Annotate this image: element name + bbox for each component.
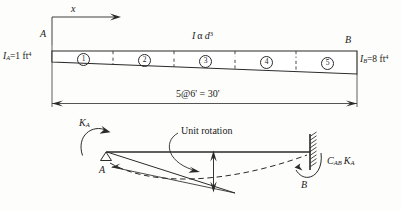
beam-segment-2: 2: [138, 54, 151, 67]
inertia-left-label: IA=1 ft4: [3, 51, 31, 61]
beam-segment-3: 3: [199, 55, 212, 68]
inertia-right-value: 8 ft: [372, 54, 385, 64]
elastic-curve-dashed: [110, 155, 307, 179]
ka-subscript: A: [86, 121, 90, 128]
overall-dimension-label: 5@6' = 30': [176, 89, 219, 99]
beam-segment-1: 1: [77, 53, 90, 66]
beam-segment-4: 4: [260, 56, 273, 69]
inertia-relation-exponent: 3: [210, 30, 213, 37]
applied-moment-arrow-a: [81, 126, 110, 156]
applied-moment-arrowhead: [100, 126, 111, 134]
cab-prefix: C: [327, 155, 334, 166]
ka-symbol: K: [79, 117, 86, 128]
inertia-right-exponent: 4: [385, 53, 388, 60]
x-axis-origin-marker: [52, 14, 121, 45]
unit-rotation-label: Unit rotation: [181, 126, 232, 136]
tangent-chord-line: [112, 167, 235, 193]
node-label-a-top: A: [40, 29, 46, 39]
cab-ka-sub: A: [350, 159, 354, 166]
carryover-moment-arrow-b: [295, 153, 322, 177]
inertia-relation-symbol: I: [192, 30, 195, 41]
unit-rotation-leader-arrowhead: [188, 166, 200, 172]
beam-segment-5: 5: [321, 57, 334, 70]
carryover-moment-arrowhead: [295, 164, 303, 171]
applied-moment-label-ka: KA: [79, 118, 90, 129]
inertia-right-label: IB=8 ft4: [360, 54, 388, 64]
inertia-relation-label: I α d3: [192, 31, 213, 41]
unit-rotation-measure-arrow: [210, 151, 216, 193]
node-label-b-top: B: [345, 35, 351, 45]
fixed-support-hatching: [310, 132, 317, 167]
x-axis-label: x: [71, 4, 75, 14]
node-label-b-bottom: B: [301, 180, 307, 190]
inertia-relation-alpha: α: [197, 30, 202, 41]
unit-rotation-leader: [169, 133, 200, 173]
inertia-left-exponent: 4: [28, 50, 31, 57]
inertia-left-value: 1 ft: [15, 51, 28, 61]
carryover-moment-label: CAB KA: [327, 156, 354, 167]
cab-prefix-sub: AB: [334, 159, 342, 166]
tangent-line-at-a: [107, 152, 235, 193]
node-label-a-bottom: A: [99, 165, 105, 175]
overall-dimension-line: [52, 100, 357, 106]
fixed-support-b: [310, 132, 317, 170]
